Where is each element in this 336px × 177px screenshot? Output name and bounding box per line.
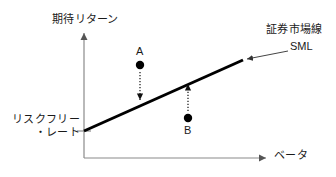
point-a-marker (136, 61, 144, 69)
x-axis-label: ベータ (274, 150, 308, 163)
risk-free-rate-label: リスクフリー ・レート (6, 114, 80, 139)
point-b-marker (184, 114, 192, 122)
y-axis-label: 期待リターン (52, 14, 119, 27)
sml-callout-arrow (247, 51, 288, 59)
point-b-label: B (184, 124, 191, 137)
point-a-label: A (136, 45, 143, 58)
smL-diagram-canvas: 期待リターン ベータ リスクフリー ・レート 証券市場線 SML A B (0, 0, 336, 177)
security-market-line (84, 60, 243, 131)
risk-free-rate-label-line1: リスクフリー (12, 113, 80, 126)
risk-free-rate-label-line2: ・レート (6, 127, 80, 140)
sml-name-label: 証券市場線 (266, 24, 323, 37)
sml-abbrev-label: SML (290, 40, 313, 53)
